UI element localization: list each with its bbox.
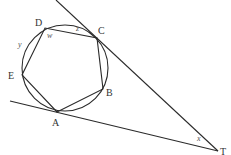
geometry-diagram: D C B A E T w y z x xyxy=(0,0,231,155)
label-a: A xyxy=(52,117,60,128)
angle-label-w: w xyxy=(47,31,53,40)
angle-label-x: x xyxy=(196,134,201,143)
label-e: E xyxy=(8,70,14,81)
angle-label-z: z xyxy=(75,24,80,33)
label-d: D xyxy=(35,17,42,28)
label-b: B xyxy=(106,87,113,98)
tangent-line-a-t xyxy=(10,101,218,151)
tangent-line-c-t xyxy=(56,0,218,151)
pentagon-abcde xyxy=(22,28,103,112)
label-t: T xyxy=(220,146,226,155)
angle-label-y: y xyxy=(17,40,22,49)
label-c: C xyxy=(98,25,105,36)
